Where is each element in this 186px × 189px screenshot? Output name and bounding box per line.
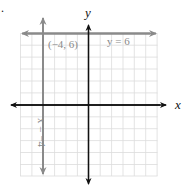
x-axis-label: x: [174, 97, 181, 112]
coordinate-plane: . y x (−4, 6) y = 6 x = −4: [0, 0, 186, 189]
bullet: .: [1, 1, 4, 15]
y-axis-label: y: [83, 5, 91, 20]
line-v-label: x = −4: [36, 118, 48, 147]
line-h-label: y = 6: [107, 35, 130, 47]
point-label: (−4, 6): [48, 38, 78, 51]
